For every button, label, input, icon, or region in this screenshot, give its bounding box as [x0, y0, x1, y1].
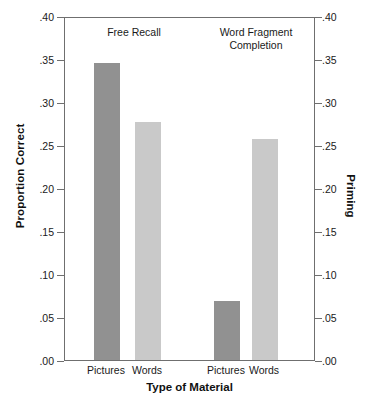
bar-word-fragment-completion-pictures [214, 301, 240, 360]
bar-chart: Free Recall Word Fragment Completion .40… [0, 0, 365, 398]
ytick-label-right-0: .40 [322, 12, 356, 23]
xtick-label-free-recall-words: Words [117, 364, 177, 377]
ytick-right-4 [315, 189, 322, 190]
ytick-label-right-6: .10 [322, 270, 356, 281]
ytick-label-left-3: .25 [22, 141, 54, 152]
ytick-left-8 [57, 361, 64, 362]
ytick-label-left-4: .20 [22, 184, 54, 195]
ytick-left-2 [57, 103, 64, 104]
ytick-right-0 [315, 17, 322, 18]
ytick-right-8 [315, 361, 322, 362]
ytick-label-left-1: .35 [22, 55, 54, 66]
ytick-right-1 [315, 60, 322, 61]
ytick-right-3 [315, 146, 322, 147]
ytick-label-left-7: .05 [22, 313, 54, 324]
ytick-label-left-2: .30 [22, 98, 54, 109]
xtick-label-word-fragment-completion-words: Words [234, 364, 294, 377]
ytick-right-5 [315, 232, 322, 233]
ytick-right-7 [315, 318, 322, 319]
bar-word-fragment-completion-words [252, 139, 278, 360]
ytick-label-right-2: .30 [322, 98, 356, 109]
ytick-label-left-0: .40 [22, 12, 54, 23]
ytick-left-1 [57, 60, 64, 61]
ytick-left-7 [57, 318, 64, 319]
bar-free-recall-pictures [94, 63, 120, 360]
group-title-free-recall: Free Recall [79, 26, 189, 39]
ytick-label-left-5: .15 [22, 227, 54, 238]
bar-free-recall-words [135, 122, 161, 361]
ytick-left-0 [57, 17, 64, 18]
ytick-label-left-8: .00 [22, 356, 54, 367]
ytick-label-right-8: .00 [322, 356, 356, 367]
group-title-word-fragment-completion: Word Fragment Completion [197, 26, 315, 52]
ytick-right-6 [315, 275, 322, 276]
plot-area: Free Recall Word Fragment Completion [64, 17, 315, 361]
ytick-right-2 [315, 103, 322, 104]
ytick-label-left-6: .10 [22, 270, 54, 281]
ytick-left-3 [57, 146, 64, 147]
ytick-label-right-7: .05 [322, 313, 356, 324]
ytick-left-4 [57, 189, 64, 190]
y-axis-label-left: Proportion Correct [14, 116, 26, 236]
ytick-left-5 [57, 232, 64, 233]
ytick-left-6 [57, 275, 64, 276]
ytick-label-right-1: .35 [322, 55, 356, 66]
y-axis-label-right: Priming [345, 141, 357, 251]
x-axis-label: Type of Material [64, 381, 315, 393]
